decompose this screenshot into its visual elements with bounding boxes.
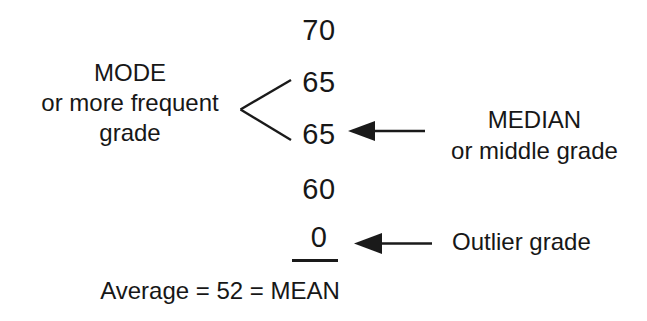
grade-value-65-first: 65 (296, 68, 342, 97)
median-caption-line-2: or middle grade (432, 135, 637, 166)
outlier-caption: Outlier grade (452, 228, 591, 256)
median-caption-line-1: MEDIAN (432, 104, 637, 135)
grade-value-0: 0 (296, 223, 342, 252)
grade-value-65-second: 65 (296, 120, 342, 149)
mode-caption: MODE or more frequent grade (10, 58, 250, 148)
grade-value-60: 60 (296, 175, 342, 204)
mode-caption-line-1: MODE (10, 58, 250, 88)
grade-value-70: 70 (296, 16, 342, 45)
median-caption: MEDIAN or middle grade (432, 104, 637, 166)
sum-rule-divider (292, 259, 338, 262)
mode-caption-line-3: grade (10, 118, 250, 148)
diagram-canvas: 70 65 65 60 0 MODE or more frequent grad… (0, 0, 647, 321)
average-mean-caption: Average = 52 = MEAN (0, 276, 440, 306)
mode-caption-line-2: or more frequent (10, 88, 250, 118)
outlier-arrow-icon (354, 233, 432, 254)
median-arrow-icon (348, 121, 425, 141)
